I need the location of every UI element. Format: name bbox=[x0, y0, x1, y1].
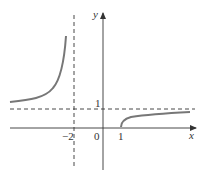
tick-label-x-one: 1 bbox=[118, 130, 124, 142]
curve-right-branch bbox=[121, 112, 190, 127]
function-graph: y x 1 −2 0 1 bbox=[0, 0, 207, 182]
curve-left-branch bbox=[10, 36, 66, 102]
tick-label-x-neg-two: −2 bbox=[62, 130, 74, 142]
x-axis-label: x bbox=[188, 129, 194, 141]
tick-label-origin: 0 bbox=[94, 130, 100, 142]
y-axis-label: y bbox=[92, 8, 98, 20]
tick-label-y-one: 1 bbox=[95, 97, 101, 109]
